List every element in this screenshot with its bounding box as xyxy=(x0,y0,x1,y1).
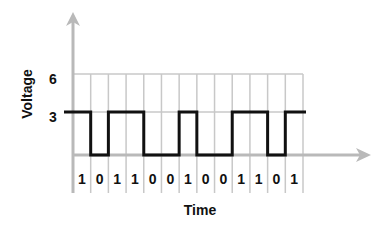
y-tick-3: 3 xyxy=(49,109,57,125)
bit-label: 0 xyxy=(149,171,157,187)
bit-label: 1 xyxy=(131,171,139,187)
bit-label: 0 xyxy=(96,171,104,187)
signal-waveform xyxy=(64,112,306,155)
bit-label: 0 xyxy=(202,171,210,187)
y-tick-6: 6 xyxy=(49,71,57,87)
bit-label: 0 xyxy=(273,171,281,187)
bit-label: 1 xyxy=(184,171,192,187)
bit-label: 1 xyxy=(78,171,86,187)
bit-label: 1 xyxy=(113,171,121,187)
bit-label: 0 xyxy=(166,171,174,187)
bit-label: 0 xyxy=(219,171,227,187)
x-axis-label: Time xyxy=(184,202,217,218)
bit-label: 1 xyxy=(237,171,245,187)
y-axis-label: Voltage xyxy=(19,69,35,119)
bit-label: 1 xyxy=(290,171,298,187)
digital-signal-diagram: 101100100110163TimeVoltage xyxy=(0,0,389,227)
bit-label: 1 xyxy=(255,171,263,187)
